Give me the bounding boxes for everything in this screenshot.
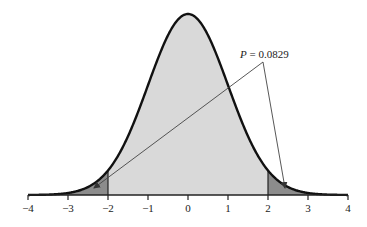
x-tick-label: −4 — [22, 202, 34, 214]
normal-distribution-chart: −4−3−2−101234 P = 0.0829 — [0, 0, 367, 227]
x-tick-label: 0 — [185, 202, 191, 214]
x-tick-label: −3 — [62, 202, 74, 214]
x-tick-label: 4 — [345, 202, 351, 214]
x-tick-label: −1 — [142, 202, 154, 214]
center-region — [108, 14, 268, 195]
x-tick-label: −2 — [102, 202, 114, 214]
x-tick-label: 1 — [225, 202, 231, 214]
x-axis: −4−3−2−101234 — [22, 195, 351, 214]
x-tick-label: 2 — [265, 202, 271, 214]
p-value-label: P = 0.0829 — [239, 48, 289, 60]
x-tick-label: 3 — [305, 202, 311, 214]
